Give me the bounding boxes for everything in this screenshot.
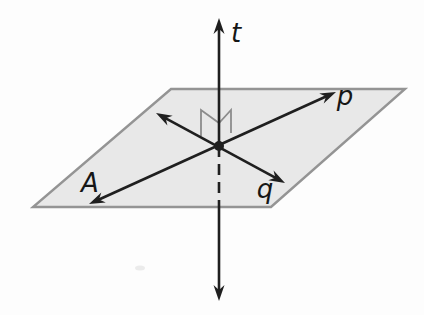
diagram-svg: tpqA	[0, 0, 424, 315]
label-t: t	[231, 18, 242, 48]
intersection-point	[214, 141, 224, 151]
label-A: A	[79, 168, 99, 198]
label-q: q	[257, 174, 274, 204]
label-p: p	[336, 81, 354, 111]
scan-smudge	[135, 266, 145, 271]
geometry-figure: tpqA	[0, 0, 424, 315]
